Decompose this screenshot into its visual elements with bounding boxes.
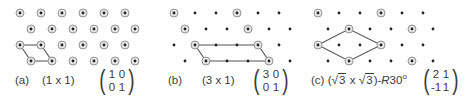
lattice-atom-icon (422, 12, 425, 15)
lattice-atom-icon (236, 44, 239, 47)
lattice-atom-icon (268, 28, 271, 31)
lattice-atom-icon (19, 12, 22, 15)
lattice-atom-icon (289, 28, 292, 31)
lattice-atom-icon (194, 12, 197, 15)
lattice-atom-icon (184, 60, 187, 63)
lattice-atom-icon (124, 12, 127, 15)
lattice-atom-icon (103, 12, 106, 15)
lattice-atom-icon (205, 28, 208, 31)
lattice-atom-icon (257, 44, 260, 47)
lattice-atom-icon (422, 44, 425, 47)
lattice-atom-icon (247, 60, 250, 63)
lattice-atom-icon (257, 12, 260, 15)
lattice-atom-icon (359, 12, 362, 15)
lattice-atom-icon (30, 28, 33, 31)
lattice-atom-icon (194, 44, 197, 47)
lattice-atom-icon (205, 60, 208, 63)
lattice-atom-icon (19, 44, 22, 47)
lattice-atom-icon (338, 44, 341, 47)
left-paren: ( (423, 67, 429, 94)
degree-symbol: o (402, 72, 406, 81)
lattice-atom-icon (114, 28, 117, 31)
right-paren: ) (282, 67, 288, 94)
panel-b-lattice (170, 9, 291, 65)
lattice-atom-icon (380, 12, 383, 15)
lattice-atom-icon (390, 28, 393, 31)
times-symbol: x (350, 74, 356, 86)
lattice-atom-icon (278, 44, 281, 47)
lattice-atom-icon (72, 60, 75, 63)
lattice-atom-icon (432, 60, 435, 63)
panel-c-matrix: ( 2 1 -1 1 ) (422, 67, 460, 94)
matrix-entry: 1 (441, 68, 451, 80)
lattice-atom-icon (278, 12, 281, 15)
matrix-entry: 1 (117, 81, 127, 93)
panel-c-lattice (314, 9, 434, 65)
lattice-atom-icon (327, 60, 330, 63)
panel-a-notation: (1 x 1) (42, 75, 75, 87)
lattice-atom-icon (401, 12, 404, 15)
lattice-atom-icon (338, 12, 341, 15)
lattice-atom-icon (226, 60, 229, 63)
matrix-entry: 0 (271, 68, 281, 80)
lattice-atom-icon (380, 44, 383, 47)
lattice-atom-icon (432, 28, 435, 31)
matrix-entry: 2 (431, 68, 441, 80)
panel-b-matrix: ( 3 0 0 1 ) (252, 67, 290, 94)
lattice-atom-icon (411, 60, 414, 63)
lattice-atom-icon (215, 12, 218, 15)
rotation-angle: 30 (390, 74, 403, 86)
lattice-atom-icon (61, 12, 64, 15)
rotation-symbol: R (381, 74, 389, 86)
lattice-atom-icon (268, 60, 271, 63)
lattice-atom-icon (327, 28, 330, 31)
panel-a-label: (a) (15, 75, 29, 87)
lattice-atom-icon (369, 28, 372, 31)
lattice-atom-icon (93, 60, 96, 63)
matrix-entry: 3 (261, 68, 271, 80)
lattice-atom-icon (93, 28, 96, 31)
lattice-atom-icon (82, 12, 85, 15)
matrix-entry: 0 (117, 68, 127, 80)
lattice-atom-icon (317, 44, 320, 47)
unit-cell-outline (318, 29, 381, 61)
unit-cell-outline (20, 45, 52, 61)
matrix-entry: 0 (107, 81, 117, 93)
lattice-atom-icon (215, 44, 218, 47)
lattice-atom-icon (317, 12, 320, 15)
lattice-atom-icon (411, 28, 414, 31)
lattice-atom-icon (236, 12, 239, 15)
matrix-entry: 0 (261, 81, 271, 93)
left-paren: ( (253, 67, 259, 94)
sqrt-symbol: √3 (359, 74, 374, 87)
lattice-atom-icon (72, 28, 75, 31)
lattice-atom-icon (124, 44, 127, 47)
lattice-atom-icon (134, 60, 137, 63)
lattice-atom-icon (173, 12, 176, 15)
lattice-atom-icon (348, 60, 351, 63)
sqrt-symbol: √3 (331, 74, 346, 87)
lattice-atom-icon (40, 44, 43, 47)
lattice-atom-icon (82, 44, 85, 47)
panel-b-notation: (3 x 1) (202, 75, 235, 87)
lattice-atom-icon (359, 44, 362, 47)
panel-c-label: (c) (√3 x √3)-R30o (311, 73, 407, 86)
matrix-entry: 1 (271, 81, 281, 93)
matrix-entry: 1 (107, 68, 117, 80)
lattice-atom-icon (369, 60, 372, 63)
right-paren: ) (452, 67, 458, 94)
lattice-atom-icon (184, 28, 187, 31)
lattice-atom-icon (103, 44, 106, 47)
lattice-atom-icon (173, 44, 176, 47)
panel-a-matrix: ( 1 0 0 1 ) (98, 67, 136, 94)
lattice-atom-icon (51, 28, 54, 31)
left-paren: ( (99, 67, 105, 94)
right-paren: ) (128, 67, 134, 94)
panel-c-id: (c) (311, 74, 324, 86)
lattice-atom-icon (390, 60, 393, 63)
panel-b-label: (b) (168, 75, 182, 87)
lattice-atom-icon (114, 60, 117, 63)
matrix-entry: 1 (441, 81, 451, 93)
panel-a-lattice (16, 9, 139, 65)
lattice-atom-icon (226, 28, 229, 31)
